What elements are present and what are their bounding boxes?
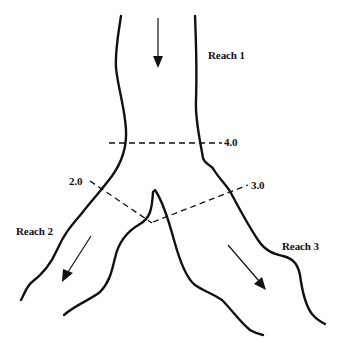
river-junction-diagram [0,0,341,348]
reach-3-label: Reach 3 [282,240,319,252]
cross-section-2-line [90,181,152,223]
flow-arrow-reach-2-icon [62,236,91,282]
cross-section-3-line [153,185,248,222]
cross-section-2-label: 2.0 [69,175,82,187]
right-bank [195,16,325,324]
flow-arrow-reach-3-icon [228,245,266,290]
reach-2-label: Reach 2 [16,225,53,237]
left-bank [21,16,126,300]
reach-1-label: Reach 1 [208,49,245,61]
flow-arrow-reach-1-icon [153,18,163,68]
cross-section-4-label: 4.0 [224,136,237,148]
island-bank [64,190,263,335]
cross-section-3-label: 3.0 [251,179,264,191]
